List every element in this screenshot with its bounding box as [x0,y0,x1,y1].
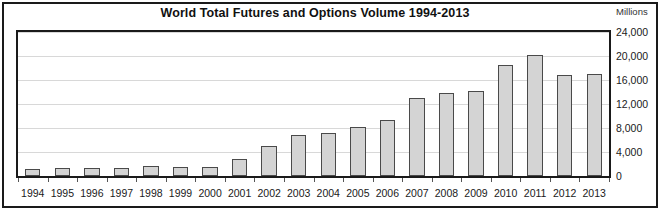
x-axis-label: 2003 [284,186,314,200]
y-axis-label: 20,000 [616,50,648,62]
x-axis-label: 2006 [373,186,403,200]
bar [202,167,217,176]
y-axis-labels: 04,0008,00012,00016,00020,00024,000 [616,0,662,212]
bar [380,120,395,176]
bar [25,169,40,176]
bar [439,93,454,176]
y-axis-label: 4,000 [616,146,642,158]
x-axis-tick [432,178,433,182]
x-axis-tick [550,178,551,182]
x-axis-label: 2001 [225,186,255,200]
x-axis-tick [77,178,78,182]
bar [350,127,365,176]
x-axis-tick [254,178,255,182]
y-axis-label: 0 [616,170,622,182]
bar [498,65,513,176]
x-axis-tick [491,178,492,182]
x-axis-label: 1996 [77,186,107,200]
x-axis-tick [579,178,580,182]
bar [84,168,99,176]
x-axis-label: 2007 [402,186,432,200]
x-axis-label: 1994 [18,186,48,200]
x-axis-label: 2000 [195,186,225,200]
bar [527,55,542,176]
x-axis-label: 2010 [491,186,521,200]
x-axis-label: 1997 [107,186,137,200]
x-axis-label: 2004 [314,186,344,200]
bar [143,166,158,176]
bar [291,135,306,176]
x-axis-tick [225,178,226,182]
x-axis-tick [107,178,108,182]
x-axis-tick [461,178,462,182]
x-axis-tick [48,178,49,182]
x-axis-label: 1999 [166,186,196,200]
x-axis-label: 1995 [48,186,78,200]
x-axis-tick [520,178,521,182]
x-axis-label: 1998 [136,186,166,200]
plot-area [16,30,611,178]
x-axis-tick [166,178,167,182]
x-axis-tick [136,178,137,182]
bar [114,168,129,176]
bar [587,74,602,176]
x-axis-label: 2012 [550,186,580,200]
chart-figure: World Total Futures and Options Volume 1… [0,0,662,212]
bar [55,168,70,176]
x-axis-tick [609,178,610,182]
y-axis-label: 12,000 [616,98,648,110]
x-axis-tick [373,178,374,182]
bar [321,133,336,176]
x-axis-label: 2008 [432,186,462,200]
bar [409,98,424,176]
y-axis-label: 16,000 [616,74,648,86]
x-axis-label: 2011 [520,186,550,200]
x-axis-label: 2005 [343,186,373,200]
bar [232,159,247,176]
x-axis-tick [343,178,344,182]
x-axis-tick [402,178,403,182]
x-axis-tick [18,178,19,182]
bar [261,146,276,176]
x-axis-label: 2009 [461,186,491,200]
y-axis-label: 24,000 [616,26,648,38]
x-axis-labels: 1994199519961997199819992000200120022003… [16,186,611,202]
y-axis-label: 8,000 [616,122,642,134]
x-axis-tick [314,178,315,182]
bar [468,91,483,176]
bar [173,167,188,176]
x-axis-tick [195,178,196,182]
bar-series [18,32,609,176]
x-axis-ticks [16,178,611,183]
x-axis-label: 2013 [579,186,609,200]
x-axis-tick [284,178,285,182]
chart-title: World Total Futures and Options Volume 1… [20,4,610,22]
bar [557,75,572,176]
x-axis-label: 2002 [254,186,284,200]
